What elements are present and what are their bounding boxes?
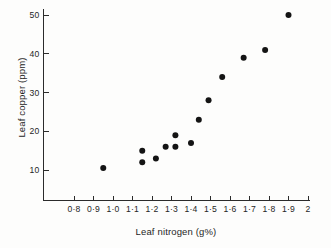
x-tick-label: 0·8 [67, 204, 80, 214]
plot-canvas: 1020304050 0·80·91·01·11·21·31·41·51·61·… [0, 0, 331, 248]
data-point [153, 155, 159, 161]
data-point [196, 117, 202, 123]
y-axis-ticks: 1020304050 [30, 10, 49, 175]
data-point [100, 165, 106, 171]
data-point [206, 97, 212, 103]
data-point [241, 55, 247, 61]
x-tick-label: 1·7 [243, 204, 256, 214]
data-point [163, 144, 169, 150]
x-tick-label: 0·9 [87, 204, 100, 214]
data-point [139, 148, 145, 154]
x-tick-label: 2 [306, 204, 311, 214]
x-tick-label: 1·4 [184, 204, 197, 214]
data-point [172, 144, 178, 150]
x-tick-label: 1·1 [126, 204, 139, 214]
data-point [172, 132, 178, 138]
x-axis-title: Leaf nitrogen (g%) [43, 226, 309, 237]
data-point [262, 47, 268, 53]
x-tick-label: 1·8 [262, 204, 275, 214]
x-tick-label: 1·6 [223, 204, 236, 214]
y-axis-title: Leaf copper (ppm) [16, 33, 27, 163]
x-tick-label: 1·2 [145, 204, 158, 214]
axis-spine [44, 9, 311, 201]
scatter-plot-figure: 1020304050 0·80·91·01·11·21·31·41·51·61·… [0, 0, 331, 248]
x-tick-label: 1·0 [106, 204, 119, 214]
data-point [219, 74, 225, 80]
y-tick-label: 10 [30, 165, 40, 175]
y-tick-label: 40 [30, 49, 40, 59]
x-tick-label: 1·9 [282, 204, 295, 214]
y-tick-label: 20 [30, 126, 40, 136]
x-tick-label: 1·3 [165, 204, 178, 214]
data-point [286, 12, 292, 18]
data-point [188, 140, 194, 146]
data-points [100, 12, 291, 171]
y-tick-label: 30 [30, 88, 40, 98]
x-axis-ticks: 0·80·91·01·11·21·31·41·51·61·71·81·92 [67, 196, 310, 214]
axes-group [44, 9, 311, 201]
data-point [139, 159, 145, 165]
x-tick-label: 1·5 [204, 204, 217, 214]
y-tick-label: 50 [30, 10, 40, 20]
